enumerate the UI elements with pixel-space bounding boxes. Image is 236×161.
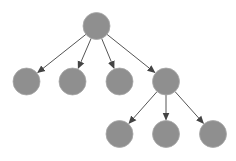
tree-node-c1 bbox=[13, 68, 40, 95]
edge-arrow-root-c3 bbox=[102, 38, 114, 68]
edge-arrow-c4-g1 bbox=[129, 92, 157, 124]
edge-arrow-root-c2 bbox=[78, 38, 91, 68]
tree-node-c2 bbox=[59, 68, 86, 95]
tree-node-c4 bbox=[153, 68, 180, 95]
tree-node-g1 bbox=[106, 121, 133, 148]
edge-arrow-root-c4 bbox=[107, 34, 155, 72]
tree-node-c3 bbox=[106, 68, 133, 95]
nodes-group bbox=[13, 13, 227, 148]
edge-arrow-c4-g3 bbox=[175, 92, 203, 124]
tree-node-g2 bbox=[153, 121, 180, 148]
tree-diagram bbox=[0, 0, 236, 161]
tree-node-root bbox=[83, 13, 110, 40]
tree-node-g3 bbox=[200, 121, 227, 148]
